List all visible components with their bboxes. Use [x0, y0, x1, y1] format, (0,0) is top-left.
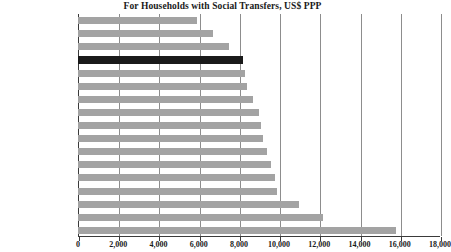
bar [78, 148, 267, 155]
bar [78, 227, 396, 234]
bar [78, 109, 259, 116]
bar [78, 188, 277, 195]
x-axis-tick-label: 4,000 [149, 240, 167, 249]
bar-row [78, 185, 440, 198]
bar-row [78, 53, 440, 66]
x-axis-tick-label: 2,000 [109, 240, 127, 249]
bar-row [78, 14, 440, 27]
x-axis-tick-label: 14,000 [349, 240, 371, 249]
bar [78, 83, 247, 90]
bar-row [78, 119, 440, 132]
bar-highlighted [78, 56, 243, 64]
bar [78, 30, 213, 37]
bar [78, 122, 261, 129]
bar-row [78, 80, 440, 93]
gridline [441, 14, 442, 236]
bar-row [78, 171, 440, 184]
bar-row [78, 132, 440, 145]
x-axis-tick-label: 0 [76, 240, 80, 249]
x-axis-tick-label: 8,000 [230, 240, 248, 249]
bar [78, 96, 253, 103]
bar-row [78, 40, 440, 53]
bar [78, 70, 245, 77]
x-axis-tick-label: 10,000 [268, 240, 290, 249]
bar [78, 214, 323, 221]
bar [78, 43, 229, 50]
x-axis-tick-label: 12,000 [308, 240, 330, 249]
bar [78, 17, 197, 24]
bar-row [78, 106, 440, 119]
bar-row [78, 198, 440, 211]
x-axis-tick-label: 6,000 [190, 240, 208, 249]
bar [78, 161, 271, 168]
bar-row [78, 27, 440, 40]
bar-row [78, 93, 440, 106]
bar [78, 201, 299, 208]
bar [78, 174, 275, 181]
bar [78, 135, 263, 142]
bar-row [78, 224, 440, 237]
bar-row [78, 211, 440, 224]
x-axis-tick-label: 18,000 [429, 240, 451, 249]
bar-row [78, 145, 440, 158]
x-axis-tick-label: 16,000 [389, 240, 411, 249]
bar-row [78, 158, 440, 171]
bar-row [78, 66, 440, 79]
